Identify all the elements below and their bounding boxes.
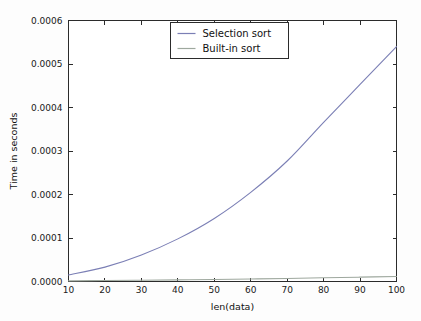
plot-background [69, 21, 397, 282]
y-axis-title: Time in seconds [8, 113, 19, 191]
legend-label-2: Built-in sort [203, 43, 261, 54]
x-axis-title: len(data) [211, 301, 254, 312]
x-tick-label: 30 [136, 285, 148, 295]
y-tick-label: 0.0005 [31, 59, 63, 69]
x-tick-label: 70 [281, 285, 293, 295]
y-tick-label: 0.0001 [31, 233, 63, 243]
y-tick-label: 0.0002 [31, 190, 63, 200]
y-tick-label: 0.0004 [31, 103, 63, 113]
x-tick-label: 90 [354, 285, 366, 295]
x-tick-label: 40 [172, 285, 184, 295]
y-tick-label: 0.0000 [31, 277, 63, 287]
x-tick-label: 50 [209, 285, 221, 295]
x-tick-label: 80 [318, 285, 330, 295]
x-tick-label: 20 [99, 285, 111, 295]
y-tick-label: 0.0006 [31, 16, 63, 26]
y-tick-label: 0.0003 [31, 146, 63, 156]
axes-area: 1020304050607080901000.00000.00010.00020… [8, 16, 405, 312]
matplotlib-figure: 1020304050607080901000.00000.00010.00020… [0, 0, 421, 321]
x-tick-label: 60 [245, 285, 257, 295]
legend-label-1: Selection sort [203, 28, 272, 39]
x-tick-label: 10 [63, 285, 75, 295]
x-tick-label: 100 [388, 285, 405, 295]
chart-canvas: 1020304050607080901000.00000.00010.00020… [0, 0, 421, 321]
